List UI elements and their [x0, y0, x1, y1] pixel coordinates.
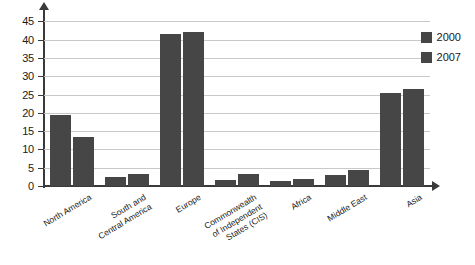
- bar-2000: [380, 93, 401, 186]
- bar-2007: [238, 174, 259, 186]
- gridline: [44, 95, 430, 96]
- gridline: [44, 21, 430, 22]
- legend: 20002007: [421, 30, 461, 70]
- bar-2007: [128, 174, 149, 186]
- category-label: North America: [41, 192, 93, 229]
- y-tick-label: 25: [0, 90, 34, 101]
- bar-2007: [183, 32, 204, 186]
- bar-chart: 051015202530354045 North AmericaSouth an…: [0, 0, 475, 265]
- gridline: [44, 149, 430, 150]
- y-tick-label: 30: [0, 71, 34, 82]
- y-tick-label: 40: [0, 35, 34, 46]
- bar-2000: [50, 115, 71, 186]
- bar-2007: [403, 89, 424, 186]
- gridline: [44, 186, 430, 187]
- legend-label: 2000: [437, 32, 461, 43]
- y-tick-label: 20: [0, 108, 34, 119]
- legend-item: 2000: [421, 30, 461, 45]
- gridline: [44, 76, 430, 77]
- bar-2007: [73, 137, 94, 186]
- gridline: [44, 168, 430, 169]
- category-label: South and Central America: [91, 192, 154, 241]
- bar-2007: [293, 179, 314, 186]
- bar-2000: [270, 181, 291, 186]
- gridline: [44, 113, 430, 114]
- y-tick-label: 15: [0, 126, 34, 137]
- bar-2000: [215, 180, 236, 186]
- category-label: Asia: [404, 192, 424, 210]
- bar-2000: [160, 34, 181, 186]
- y-tick-label: 35: [0, 53, 34, 64]
- bar-2007: [348, 170, 369, 186]
- legend-swatch-icon: [421, 52, 432, 63]
- category-label: Europe: [174, 192, 203, 215]
- legend-swatch-icon: [421, 32, 432, 43]
- y-tick-label: 0: [0, 181, 34, 192]
- gridline: [44, 40, 430, 41]
- bar-2000: [105, 177, 126, 187]
- gridline: [44, 58, 430, 59]
- bar-2000: [325, 175, 346, 186]
- plot-area: [44, 14, 430, 186]
- gridline: [44, 131, 430, 132]
- category-label: Africa: [290, 192, 314, 212]
- legend-item: 2007: [421, 50, 461, 65]
- y-axis-arrow-icon: [39, 2, 49, 10]
- y-tick-label: 10: [0, 144, 34, 155]
- y-tick-label: 5: [0, 163, 34, 174]
- y-tick-label: 45: [0, 16, 34, 27]
- legend-label: 2007: [437, 52, 461, 63]
- category-label: Middle East: [325, 192, 368, 224]
- x-axis-arrow-icon: [432, 181, 440, 191]
- category-label: Commonwealth of Independent States (CIS): [202, 192, 269, 249]
